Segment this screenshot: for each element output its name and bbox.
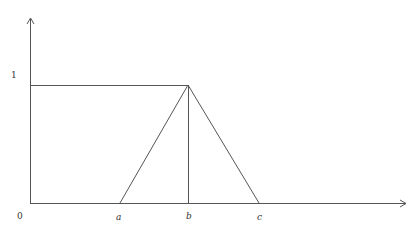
point-a-label: a xyxy=(116,213,121,222)
diagram-canvas xyxy=(0,0,417,227)
triangle-left-edge xyxy=(120,85,188,203)
point-b-label: b xyxy=(186,212,192,221)
triangle-right-edge xyxy=(188,85,259,203)
origin-label: 0 xyxy=(17,212,23,221)
point-c-label: c xyxy=(257,213,262,222)
y-tick-label-one: 1 xyxy=(11,71,17,80)
